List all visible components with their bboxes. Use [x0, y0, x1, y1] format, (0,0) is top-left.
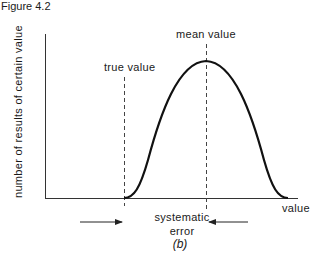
- diagram-canvas: [0, 0, 318, 257]
